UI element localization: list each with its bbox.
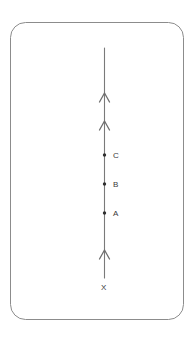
- figure-card: C B A X: [0, 0, 195, 339]
- point-label-a: A: [113, 209, 119, 218]
- point-label-b: B: [113, 180, 119, 189]
- origin-label-x: X: [101, 283, 107, 292]
- point-label-c: C: [113, 151, 119, 160]
- line-diagram: C B A X: [0, 0, 195, 339]
- point-dot-a: [103, 211, 106, 214]
- point-dot-c: [103, 153, 106, 156]
- point-dot-b: [103, 182, 106, 185]
- card-border: [11, 23, 184, 320]
